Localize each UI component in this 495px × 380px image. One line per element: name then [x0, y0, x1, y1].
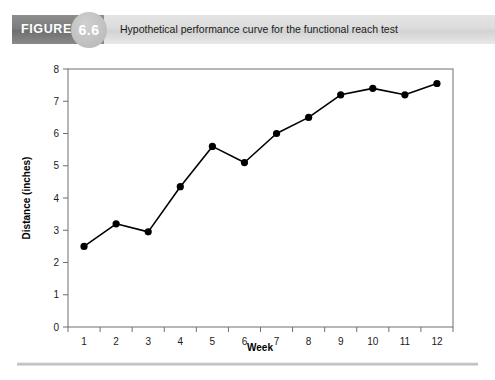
y-axis-tick-label: 8	[53, 64, 59, 75]
figure-number-circle: 6.6	[71, 12, 107, 48]
data-point	[433, 80, 440, 87]
y-axis-tick-label: 6	[53, 128, 59, 139]
bottom-divider	[17, 362, 478, 366]
figure-badge-label: FIGURE	[21, 22, 72, 37]
y-axis-tick-label: 2	[53, 257, 59, 268]
y-axis-tick-label: 4	[53, 193, 59, 204]
data-point	[369, 85, 376, 92]
data-point	[209, 143, 216, 150]
x-axis-tick-label: 11	[400, 336, 411, 347]
x-axis-title: Week	[247, 342, 273, 353]
data-point	[80, 243, 87, 250]
x-axis-tick-label: 10	[367, 336, 379, 347]
x-axis-tick-label: 1	[81, 336, 87, 347]
data-point	[401, 91, 408, 98]
chart-container: 012345678 123456789101112 Week Distance …	[0, 55, 495, 355]
x-axis-tick-label: 7	[274, 336, 280, 347]
data-point	[145, 228, 152, 235]
y-axis: 012345678	[53, 64, 68, 333]
x-axis-tick-label: 4	[178, 336, 184, 347]
data-point	[273, 130, 280, 137]
y-axis-tick-label: 1	[53, 289, 59, 300]
data-point	[241, 159, 248, 166]
data-point	[113, 220, 120, 227]
y-axis-tick-label: 0	[53, 322, 59, 333]
x-axis-tick-label: 5	[210, 336, 216, 347]
y-axis-tick-label: 3	[53, 225, 59, 236]
data-point	[177, 183, 184, 190]
y-axis-tick-label: 7	[53, 96, 59, 107]
figure-header: FIGURE 6.6 Hypothetical performance curv…	[12, 15, 495, 44]
data-point	[305, 114, 312, 121]
x-axis-tick-label: 2	[113, 336, 119, 347]
figure-caption: Hypothetical performance curve for the f…	[120, 22, 398, 37]
x-axis-tick-label: 9	[338, 336, 344, 347]
figure-number-label: 6.6	[71, 12, 107, 48]
plot-frame	[68, 69, 453, 327]
y-axis-tick-label: 5	[53, 160, 59, 171]
data-point	[337, 91, 344, 98]
x-axis-tick-label: 8	[306, 336, 312, 347]
x-axis-tick-label: 3	[145, 336, 151, 347]
x-axis-tick-label: 12	[431, 336, 443, 347]
performance-line-chart: 012345678 123456789101112 Week Distance …	[0, 55, 495, 355]
y-axis-title: Distance (inches)	[21, 157, 32, 240]
